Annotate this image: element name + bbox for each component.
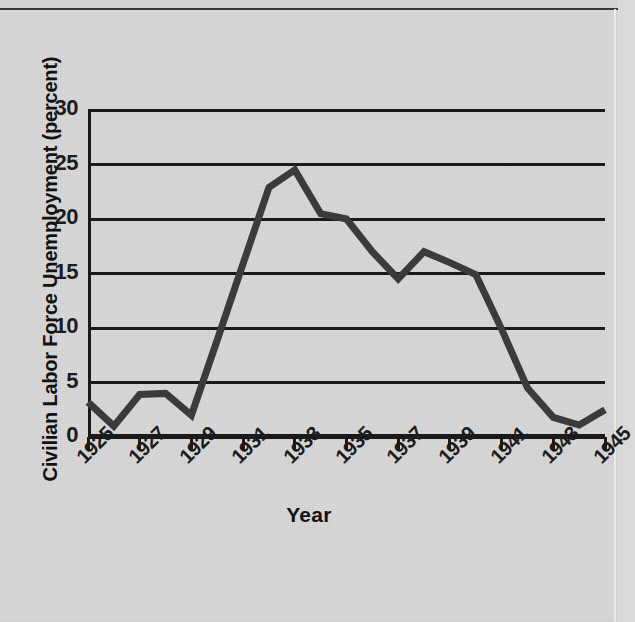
- x-axis-title: Year: [0, 503, 618, 527]
- y-axis-title: Civilian Labor Force Unemployment (perce…: [39, 82, 62, 482]
- series-line-layer: [88, 110, 605, 437]
- series-polyline: [88, 170, 605, 426]
